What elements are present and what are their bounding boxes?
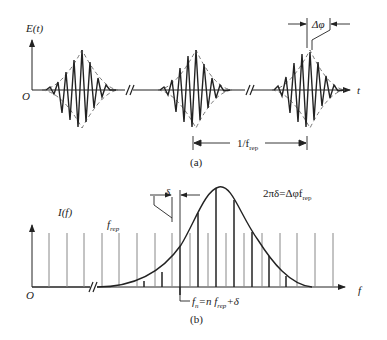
offset-annotation bbox=[150, 190, 200, 246]
caption-b: (b) bbox=[190, 313, 203, 326]
comb-mode-lines bbox=[144, 188, 286, 295]
x-axis-label-a: t bbox=[357, 84, 361, 96]
axis-break-icon bbox=[89, 282, 97, 292]
panel-b-frequency-domain: I(f) O f frep bbox=[26, 186, 363, 326]
relation-label: 2πδ=Δφfrep bbox=[263, 187, 312, 202]
pulse-1 bbox=[42, 50, 118, 128]
mode-label-leader bbox=[180, 287, 190, 301]
offset-label: δ bbox=[165, 186, 171, 198]
phase-shift-label: Δφ bbox=[311, 18, 325, 30]
rep-rate-label: frep bbox=[107, 218, 120, 233]
y-axis-label-a: E(t) bbox=[25, 22, 43, 35]
pulse-3 bbox=[272, 50, 345, 128]
origin-label-b: O bbox=[26, 289, 34, 301]
frequency-comb-diagram: E(t) O t bbox=[0, 0, 387, 340]
x-axis-label-b: f bbox=[358, 284, 363, 296]
caption-a: (a) bbox=[190, 156, 203, 169]
mode-frequency-label: fn=n frep+δ bbox=[192, 295, 240, 310]
panel-a-time-domain: E(t) O t bbox=[22, 18, 361, 169]
period-label: 1/frep bbox=[237, 137, 259, 152]
y-axis-label-b: I(f) bbox=[57, 206, 72, 219]
pulse-2 bbox=[158, 50, 232, 128]
origin-label-a: O bbox=[22, 90, 30, 102]
